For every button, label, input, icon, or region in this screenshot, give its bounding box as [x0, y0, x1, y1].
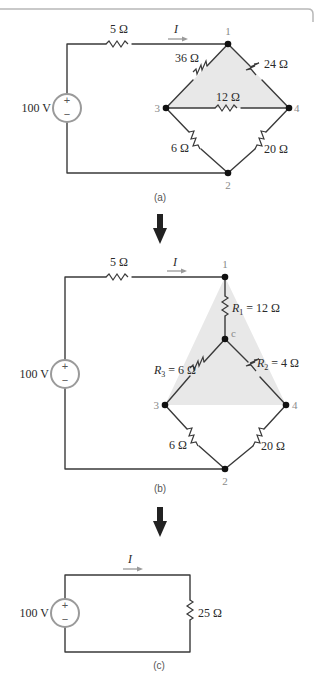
- wire-3-2a: [165, 405, 187, 429]
- wire-left-top: [65, 277, 106, 360]
- resistor-r3-label: R3 = 6 Ω: [153, 363, 196, 379]
- wire-4-2a: [266, 108, 289, 132]
- node-3: [162, 402, 169, 409]
- resistor-25-label: 25 Ω: [198, 606, 222, 620]
- resistor-20-label: 20 Ω: [261, 439, 285, 453]
- resistor-25-ohm: [187, 600, 193, 620]
- resistor-r2-label: R2 = 4 Ω: [256, 356, 299, 372]
- node-4: [283, 402, 290, 409]
- source-label: 100 V: [22, 101, 52, 115]
- node-3-label: 3: [154, 399, 160, 411]
- wire-top: [65, 575, 190, 600]
- caption-b: (b): [154, 483, 166, 494]
- frame-border: [0, 9, 313, 22]
- panel-b: + − 100 V I 5 Ω R1 = 12 Ω R3 = 6 Ω R2 = …: [20, 255, 300, 494]
- minus-sign: −: [64, 108, 70, 120]
- panel-a: + − 100 V I 5 Ω 36 Ω 24 Ω 12 Ω 6 Ω 20 Ω: [22, 22, 300, 203]
- resistor-5-label: 5 Ω: [110, 22, 128, 36]
- node-1-label: 1: [225, 25, 231, 37]
- node-2: [222, 466, 229, 473]
- node-1-label: 1: [222, 258, 228, 270]
- node-4: [286, 105, 293, 112]
- node-2: [225, 170, 232, 177]
- down-arrow-icon: [153, 507, 167, 537]
- wire-3-2a: [166, 108, 189, 132]
- wire-4-2a: [264, 405, 286, 429]
- resistor-6-ohm: [187, 428, 198, 446]
- node-3-label: 3: [155, 102, 161, 114]
- plus-sign: +: [64, 94, 70, 106]
- wire-bottom: [65, 620, 190, 652]
- current-arrow-head: [137, 567, 143, 572]
- node-4-label: 4: [292, 399, 298, 411]
- caption-c: (c): [153, 660, 165, 671]
- resistor-5-ohm: [106, 274, 128, 280]
- caption-a: (a): [154, 192, 166, 203]
- current-arrow-head: [182, 37, 188, 42]
- resistor-6-label: 6 Ω: [169, 438, 187, 452]
- resistor-r1-label: R1 = 12 Ω: [231, 301, 280, 317]
- node-2-label: 2: [222, 475, 228, 487]
- wire-bottom: [67, 122, 228, 173]
- source-label: 100 V: [20, 367, 50, 381]
- resistor-5-ohm: [106, 41, 128, 47]
- minus-sign: −: [62, 374, 68, 386]
- node-2-label: 2: [225, 179, 231, 191]
- circuit-figure: + − 100 V I 5 Ω 36 Ω 24 Ω 12 Ω 6 Ω 20 Ω: [0, 0, 321, 681]
- resistor-36-label: 36 Ω: [175, 51, 199, 65]
- current-label: I: [127, 552, 133, 566]
- panel-c: + − 100 V I 25 Ω (c): [20, 552, 222, 671]
- resistor-24-label: 24 Ω: [264, 57, 288, 71]
- resistor-5-label: 5 Ω: [110, 255, 128, 269]
- down-arrow-icon: [153, 214, 167, 244]
- node-1: [222, 274, 229, 281]
- node-c: [222, 336, 229, 343]
- resistor-6-ohm: [189, 131, 200, 149]
- wire-4-2b: [225, 446, 253, 469]
- resistor-12-label: 12 Ω: [216, 90, 240, 104]
- resistor-20-label: 20 Ω: [264, 142, 288, 156]
- wire-3-2b: [199, 446, 225, 469]
- plus-sign: +: [62, 360, 68, 372]
- minus-sign: −: [62, 613, 68, 625]
- wire-3-2b: [201, 149, 228, 173]
- current-label: I: [172, 255, 178, 269]
- current-arrow-head: [181, 269, 187, 274]
- node-1: [225, 41, 232, 48]
- node-3: [163, 105, 170, 112]
- current-label: I: [173, 22, 179, 36]
- plus-sign: +: [62, 599, 68, 611]
- wire-left-top: [67, 44, 106, 94]
- node-c-label: c: [231, 327, 236, 339]
- source-label: 100 V: [20, 606, 50, 620]
- resistor-6-label: 6 Ω: [171, 141, 189, 155]
- wire-4-2b: [228, 149, 255, 173]
- node-4-label: 4: [294, 102, 300, 114]
